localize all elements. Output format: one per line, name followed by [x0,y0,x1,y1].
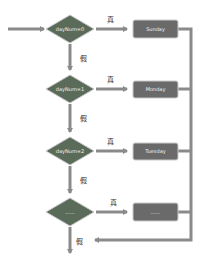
condition-label: dayNum=0 [56,26,84,33]
flowchart: dayNum=0 真 Sunday 假 dayNum=1 真 Monday 假 … [0,0,206,269]
false-label: 假 [80,114,87,123]
action-label: ...... [151,209,161,215]
condition-label: dayNum=1 [56,86,84,93]
action-label: Monday [146,86,166,93]
action-label: Tuesday [144,148,165,155]
branch-0: dayNum=0 真 Sunday 假 [46,15,178,70]
condition-label: dayNum=2 [56,148,84,155]
condition-label: ...... [65,209,75,215]
false-label: 假 [80,176,87,185]
branch-3: ...... 真 ...... 假 [46,198,178,253]
branch-1: dayNum=1 真 Monday 假 [46,75,178,132]
true-label: 真 [107,137,114,146]
true-label: 真 [110,198,117,207]
branch-2: dayNum=2 真 Tuesday 假 [46,137,178,193]
false-label: 假 [80,54,87,63]
true-label: 真 [107,15,114,24]
action-label: Sunday [146,26,165,33]
false-label: 假 [76,237,83,246]
true-label: 真 [107,75,114,84]
